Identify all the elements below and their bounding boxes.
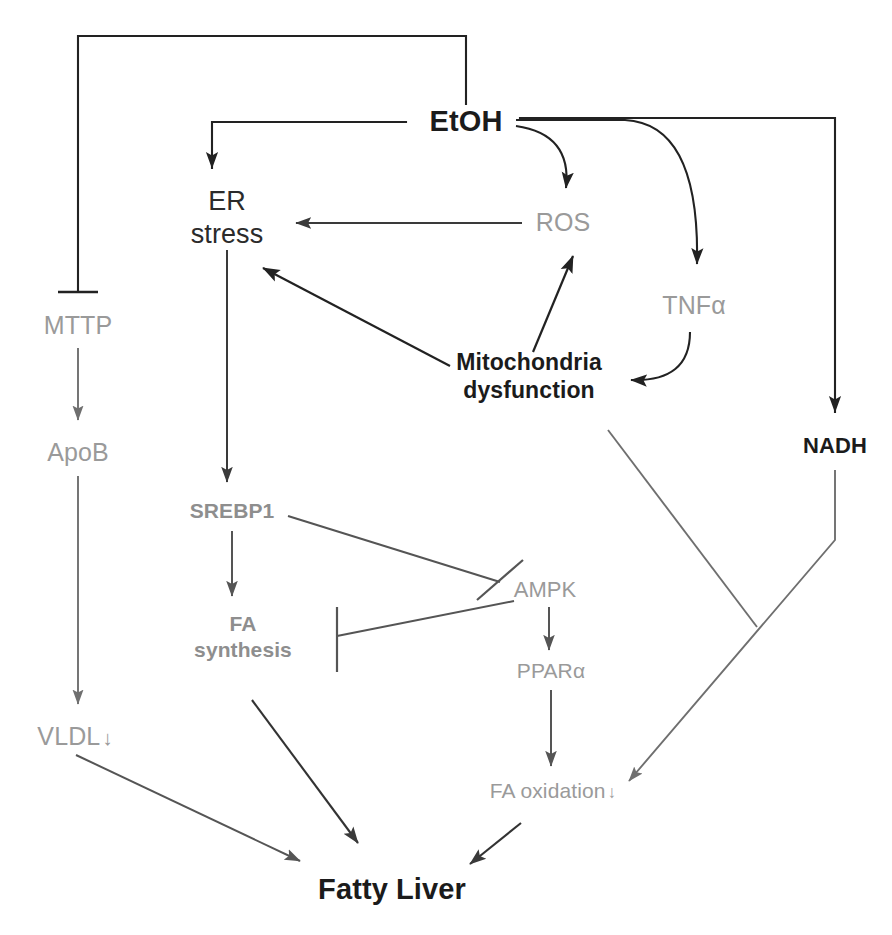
node-ampk[interactable]: AMPK	[514, 577, 577, 604]
pathway-diagram: EtOH ER stress ROS TNFα Mitochondria dys…	[0, 0, 892, 935]
edge-etoh-er	[212, 122, 406, 168]
node-mttp[interactable]: MTTP	[44, 310, 112, 341]
node-etoh[interactable]: EtOH	[430, 104, 503, 139]
node-vldl-label: VLDL	[37, 722, 100, 750]
node-synthesis-label: synthesis	[194, 637, 292, 663]
node-mttp-label: MTTP	[44, 311, 112, 339]
edge-layer	[0, 0, 892, 935]
node-mitochondria-dysfunction[interactable]: Mitochondria dysfunction	[456, 348, 602, 404]
node-fa-oxidation-label: FA oxidation	[490, 779, 606, 802]
node-apob-label: ApoB	[47, 438, 109, 466]
node-ros-label: ROS	[536, 208, 590, 236]
node-er-stress-label: ER	[208, 186, 246, 216]
node-fa-synthesis[interactable]: FA synthesis	[194, 611, 292, 662]
down-arrow-icon: ↓	[100, 726, 112, 749]
node-ros[interactable]: ROS	[536, 207, 590, 238]
edge-etoh-tnfa	[516, 120, 697, 264]
node-dysfunction-label: dysfunction	[456, 376, 602, 404]
edge-fasyn-fatty	[252, 700, 358, 843]
node-srebp1[interactable]: SREBP1	[190, 498, 275, 524]
node-tnfa-label: TNFα	[662, 291, 725, 319]
down-arrow-icon: ↓	[605, 782, 616, 802]
edge-etoh-ros	[516, 126, 567, 188]
node-mitochondria-label: Mitochondria	[456, 349, 602, 375]
node-ampk-label: AMPK	[514, 577, 577, 602]
edge-mito-er	[263, 268, 450, 366]
node-etoh-label: EtOH	[430, 105, 503, 137]
edge-tnfa-mito	[631, 332, 690, 380]
node-ppara[interactable]: PPARα	[517, 658, 585, 684]
edge-srebp1-ampk	[288, 516, 523, 600]
edge-vldl-fatty	[76, 755, 300, 861]
edge-etoh-mttp	[58, 36, 466, 292]
node-ppara-label: PPARα	[517, 659, 585, 682]
edge-mito-ros	[533, 256, 573, 352]
node-apob[interactable]: ApoB	[47, 437, 109, 468]
edge-mito-inhibits-faox-route	[608, 430, 757, 627]
node-fatty-liver[interactable]: Fatty Liver	[318, 872, 466, 907]
node-tnfa[interactable]: TNFα	[662, 290, 725, 321]
edge-faox-fatty	[470, 823, 521, 864]
node-nadh[interactable]: NADH	[803, 433, 867, 460]
node-fa-oxidation[interactable]: FA oxidation↓	[490, 778, 616, 804]
node-vldl[interactable]: VLDL↓	[37, 721, 112, 752]
node-srebp1-label: SREBP1	[190, 499, 275, 522]
node-er-stress-label2: stress	[191, 218, 264, 251]
node-fatty-liver-label: Fatty Liver	[318, 873, 466, 905]
edge-nadh-faox	[629, 470, 835, 781]
edge-ampk-fasyn	[337, 601, 514, 672]
node-er-stress[interactable]: ER stress	[191, 185, 264, 251]
node-fa-label: FA	[229, 612, 256, 635]
node-nadh-label: NADH	[803, 433, 867, 458]
